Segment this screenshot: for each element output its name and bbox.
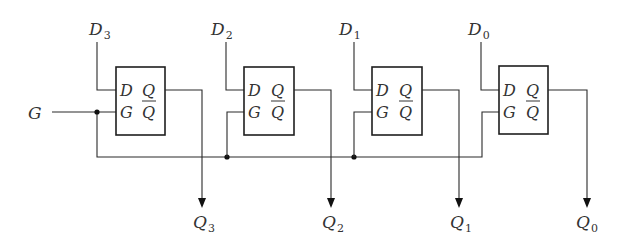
pin-g-label: G	[120, 103, 133, 122]
pin-q-label: Q	[526, 81, 539, 100]
pin-q-label: Q	[142, 81, 155, 100]
data-input-wire	[97, 42, 116, 90]
latch-box	[244, 67, 294, 135]
d-latch-3: D3 D G Q Q Q3	[88, 19, 215, 235]
data-input-label: D1	[338, 19, 361, 42]
data-input-wire	[354, 42, 372, 90]
gate-branch-latch-1	[354, 112, 372, 157]
output-label: Q1	[450, 212, 472, 235]
q-output-wire	[422, 90, 459, 200]
pin-d-label: D	[502, 81, 516, 100]
d-latch-0: D0 D G Q Q Q0	[467, 19, 598, 235]
latch-register-diagram: G D3 D G Q Q Q3 D2 D G Q Q Q2 D1	[0, 0, 624, 246]
gate-input-label: G	[28, 103, 42, 123]
pin-qbar-label: Q	[142, 103, 155, 122]
pin-qbar-label: Q	[526, 103, 539, 122]
output-label: Q0	[576, 212, 598, 235]
data-input-wire	[481, 42, 499, 90]
data-input-label: D0	[467, 19, 490, 42]
arrow-down-icon	[327, 198, 335, 208]
q-output-wire	[548, 90, 587, 200]
gate-input: G	[28, 103, 116, 123]
pin-d-label: D	[375, 81, 389, 100]
pin-g-label: G	[248, 103, 261, 122]
d-latch-1: D1 D G Q Q Q1	[338, 19, 472, 235]
arrow-down-icon	[455, 198, 463, 208]
arrow-down-icon	[198, 198, 206, 208]
pin-qbar-label: Q	[271, 103, 284, 122]
pin-g-label: G	[376, 103, 389, 122]
q-output-wire	[165, 90, 202, 200]
pin-q-label: Q	[399, 81, 412, 100]
pin-d-label: D	[119, 81, 133, 100]
junction-dot	[94, 109, 99, 114]
output-label: Q3	[193, 212, 215, 235]
latch-box	[116, 67, 165, 135]
latch-box	[499, 66, 548, 134]
output-label: Q2	[322, 212, 344, 235]
data-input-label: D2	[210, 19, 233, 42]
pin-q-label: Q	[271, 81, 284, 100]
data-input-wire	[226, 42, 244, 90]
gate-branch-latch-2	[227, 112, 244, 157]
arrow-down-icon	[583, 198, 591, 208]
q-output-wire	[294, 90, 331, 200]
pin-qbar-label: Q	[399, 103, 412, 122]
pin-g-label: G	[503, 103, 516, 122]
data-input-label: D3	[88, 19, 111, 42]
pin-d-label: D	[247, 81, 261, 100]
d-latch-2: D2 D G Q Q Q2	[210, 19, 344, 235]
latch-box	[372, 67, 422, 135]
